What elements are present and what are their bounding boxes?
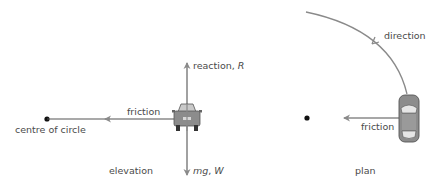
direction-label: direction [384, 30, 426, 41]
reaction-label: reaction, R [193, 60, 244, 71]
friction-label: friction [127, 106, 160, 117]
circular-path [306, 12, 407, 94]
car-front-icon [172, 104, 202, 131]
elevation-view: friction centre of circle reaction, R mg… [15, 60, 244, 176]
weight-label: mg, W [193, 165, 224, 176]
direction-arrowhead [372, 37, 379, 44]
elevation-caption: elevation [109, 165, 153, 176]
plan-caption: plan [355, 165, 376, 176]
circular-motion-diagram: friction centre of circle reaction, R mg… [0, 0, 434, 184]
car-top-icon [399, 95, 419, 142]
plan-centre-dot [304, 115, 309, 120]
plan-view: direction friction plan [304, 12, 425, 176]
plan-friction-label: friction [361, 121, 394, 132]
centre-label: centre of circle [15, 124, 86, 135]
